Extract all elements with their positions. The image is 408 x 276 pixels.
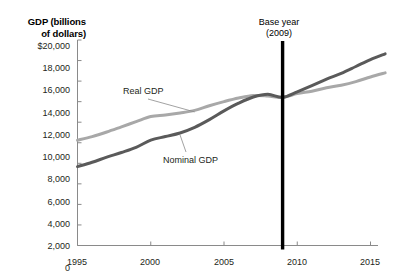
- real-gdp-leader-line: [148, 99, 195, 112]
- plot-area: [0, 0, 408, 276]
- gdp-line-chart: GDP (billions of dollars) $20,000 18,000…: [0, 0, 408, 276]
- nominal-gdp-leader-line: [180, 135, 186, 152]
- y-axis-ticks: [78, 40, 82, 246]
- x-axis-ticks: [78, 242, 371, 246]
- nominal-gdp-line: [78, 54, 386, 167]
- axes: [78, 40, 379, 246]
